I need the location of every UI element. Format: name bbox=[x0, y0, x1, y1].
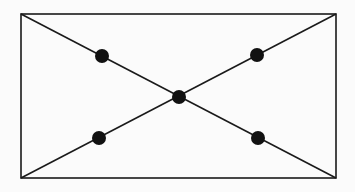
upper-left-point bbox=[95, 49, 109, 63]
lower-left-point bbox=[92, 131, 106, 145]
upper-right-point bbox=[250, 48, 264, 62]
lower-right-point bbox=[251, 131, 265, 145]
rectangle-diagonals-diagram bbox=[0, 0, 355, 192]
points-group bbox=[92, 48, 265, 145]
center-point bbox=[172, 90, 186, 104]
